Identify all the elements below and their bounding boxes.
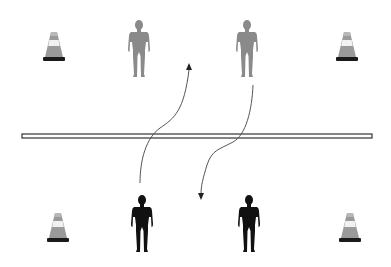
- cone-icon-top-right: [336, 32, 358, 61]
- drill-diagram: [0, 0, 391, 267]
- player-icon-bottom-left: [131, 195, 153, 252]
- player-icon-bottom-right: [238, 195, 260, 252]
- cone-icon-bottom-right: [339, 213, 361, 242]
- cone-icon-top-left: [43, 32, 65, 61]
- run-path-top-right-to-bottom: [201, 85, 253, 194]
- player-icon-top-left: [128, 20, 150, 77]
- player-icon-top-right: [236, 20, 258, 77]
- net-line: [22, 134, 372, 138]
- arrowhead-down-icon: [198, 193, 204, 200]
- cone-icon-bottom-left: [47, 213, 69, 242]
- run-path-bottom-left-to-top: [140, 70, 189, 183]
- arrowhead-up-icon: [186, 63, 192, 70]
